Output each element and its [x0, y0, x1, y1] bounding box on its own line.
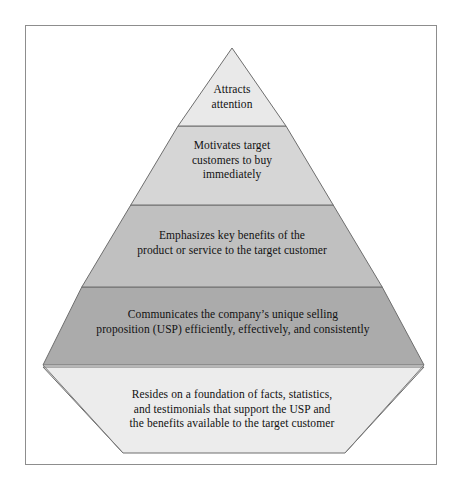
tier-1-shape[interactable] — [178, 48, 286, 126]
base-foundation-shape[interactable] — [43, 367, 424, 453]
pyramid-diagram: Attracts attention Motivates target cust… — [0, 0, 460, 494]
tier-2-shape[interactable] — [131, 126, 333, 205]
tier-4-shape[interactable] — [43, 287, 424, 365]
pyramid-shapes-svg — [0, 0, 460, 494]
figure-root: Attracts attention Motivates target cust… — [0, 0, 460, 494]
tier-3-shape[interactable] — [82, 205, 382, 287]
